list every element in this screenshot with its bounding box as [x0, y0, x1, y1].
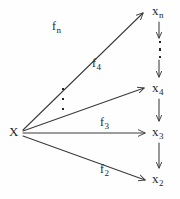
node-x-2-subscript: 2 [159, 178, 164, 188]
edge-label-f-3: f3 [100, 116, 109, 131]
diagram-canvas: X xn x4 x3 x2 fn f4 f3 f2 [0, 0, 180, 199]
edge-label-f-4-subscript: 4 [96, 62, 101, 72]
ellipsis-dot [159, 48, 161, 50]
edge-f-n [23, 13, 143, 130]
fan-ellipsis-icon [61, 88, 65, 110]
edge-f-2 [23, 136, 145, 180]
diagram-strokes [0, 0, 180, 199]
edge-label-f-4: f4 [92, 57, 101, 72]
node-x-4: x4 [152, 81, 164, 97]
node-x-3-subscript: 3 [159, 131, 164, 141]
edge-label-f-n: fn [52, 20, 61, 35]
edge-label-f-n-subscript: n [56, 25, 61, 35]
node-x-3: x3 [152, 125, 164, 141]
edge-label-f-2-subscript: 2 [104, 168, 109, 178]
edge-label-f-2: f2 [100, 163, 109, 178]
ellipsis-dot [159, 56, 161, 58]
node-x-n-subscript: n [159, 10, 164, 20]
ellipsis-dot [62, 98, 64, 100]
ellipsis-dot [62, 108, 64, 110]
chain-ellipsis-icon [158, 41, 162, 58]
ellipsis-dot [159, 41, 161, 43]
ellipsis-dot [62, 88, 64, 90]
node-x-n: xn [152, 4, 164, 20]
edge-f-4 [23, 88, 144, 131]
node-x-4-subscript: 4 [159, 87, 164, 97]
edge-label-f-3-subscript: 3 [104, 121, 109, 131]
node-x-2: x2 [152, 172, 164, 188]
source-node-X: X [9, 125, 18, 138]
